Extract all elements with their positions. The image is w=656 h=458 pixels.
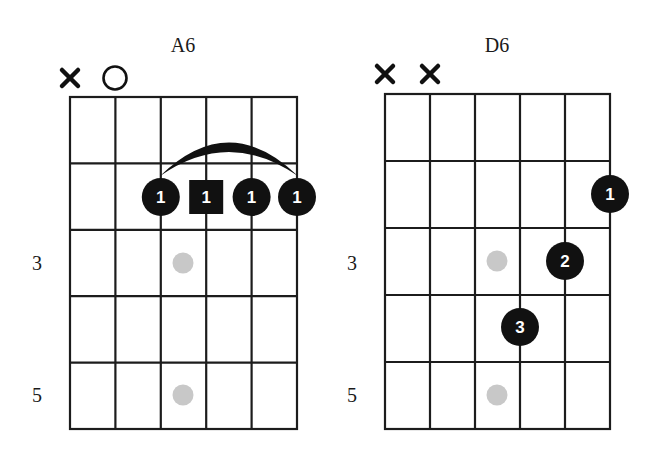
fret-inlay-dot (487, 251, 508, 272)
muted-string-icon (422, 66, 438, 82)
chord-title: D6 (485, 34, 509, 56)
fret-inlay-dot (487, 385, 508, 406)
svg-text:3: 3 (515, 318, 524, 337)
fret-number-label: 3 (347, 252, 357, 274)
svg-text:1: 1 (156, 188, 165, 207)
muted-string-icon (62, 70, 78, 86)
fret-number-label: 5 (32, 384, 42, 406)
finger-dot: 1 (278, 178, 316, 216)
svg-text:1: 1 (605, 185, 614, 204)
barre-arc (160, 143, 298, 177)
open-string-icon (104, 67, 127, 90)
finger-dot: 1 (591, 175, 629, 213)
fret-inlay-dot (173, 385, 194, 406)
fret-inlay-dot (173, 253, 194, 274)
muted-string-icon (377, 66, 393, 82)
finger-dot: 2 (546, 242, 584, 280)
chord-diagram-a6: A6 3 5 1 (32, 34, 316, 429)
svg-text:1: 1 (247, 188, 256, 207)
root-finger-square: 1 (189, 180, 223, 214)
svg-text:2: 2 (560, 252, 569, 271)
fret-number-label: 5 (347, 384, 357, 406)
finger-dot: 3 (501, 308, 539, 346)
chord-title: A6 (171, 34, 195, 56)
svg-text:1: 1 (292, 188, 301, 207)
finger-dot: 1 (233, 178, 271, 216)
svg-text:1: 1 (201, 188, 210, 207)
chord-diagram-d6: D6 3 5 1 (347, 34, 629, 429)
chord-diagrams: A6 3 5 1 (0, 0, 656, 458)
fret-number-label: 3 (32, 252, 42, 274)
finger-dot: 1 (142, 178, 180, 216)
